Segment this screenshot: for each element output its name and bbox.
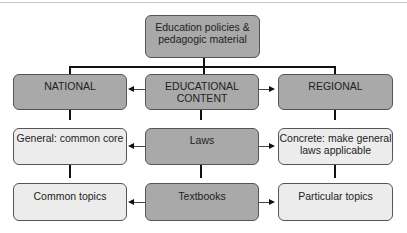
node-root-label-2: pedagogic material [146, 33, 259, 45]
node-textbooks: Textbooks [145, 183, 259, 221]
node-national-label: NATIONAL [14, 80, 126, 92]
node-regional-label: REGIONAL [279, 80, 392, 92]
top-divider [0, 2, 407, 3]
arrow-left-icon [128, 143, 134, 149]
node-educational-content-label-2: CONTENT [146, 92, 258, 104]
node-laws: Laws [145, 128, 259, 165]
arrow-right-icon [269, 199, 275, 205]
node-national: NATIONAL [13, 74, 127, 110]
node-particular-topics-label: Particular topics [279, 190, 392, 202]
node-common-topics-label: Common topics [14, 190, 126, 202]
arrow-left-icon [128, 86, 134, 92]
connector-center-l2-l3 [200, 164, 202, 178]
connector-national-l2-l3 [69, 164, 71, 178]
connector-regional-l2-l3 [334, 164, 336, 178]
node-particular-topics: Particular topics [278, 183, 393, 221]
node-educational-content-label-1: EDUCATIONAL [146, 80, 258, 92]
node-concrete: Concrete: make general laws applicable [278, 128, 393, 165]
arrow-right-icon [269, 143, 275, 149]
node-laws-label: Laws [146, 134, 258, 146]
node-textbooks-label: Textbooks [146, 190, 258, 202]
node-concrete-label-2: laws applicable [279, 144, 392, 156]
arrow-right-icon [269, 86, 275, 92]
node-general-common-core-label: General: common core [14, 132, 126, 144]
node-common-topics: Common topics [13, 183, 127, 221]
node-educational-content: EDUCATIONAL CONTENT [145, 74, 259, 110]
arrow-line-l1-left [132, 89, 146, 90]
arrow-line-l3-left [132, 202, 146, 203]
arrow-left-icon [128, 199, 134, 205]
node-general-common-core: General: common core [13, 128, 127, 165]
node-regional: REGIONAL [278, 74, 393, 110]
node-root: Education policies & pedagogic material [145, 15, 260, 58]
node-concrete-label-1: Concrete: make general [279, 132, 392, 144]
arrow-line-l2-left [132, 146, 146, 147]
node-root-label-1: Education policies & [146, 21, 259, 33]
